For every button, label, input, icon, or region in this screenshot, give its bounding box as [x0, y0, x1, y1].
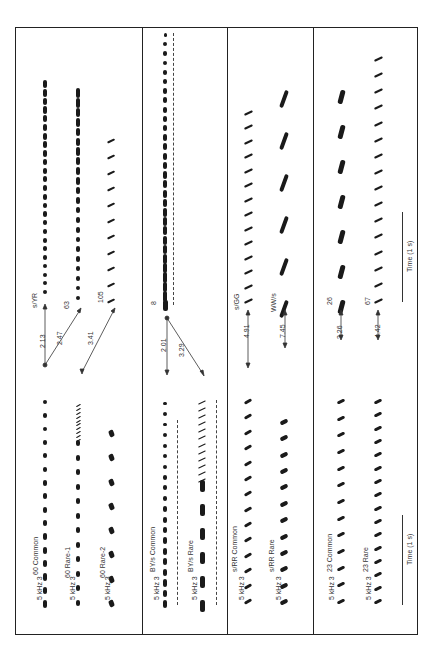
- cropped-caption: [424, 10, 430, 630]
- transition-arrows: [0, 0, 433, 648]
